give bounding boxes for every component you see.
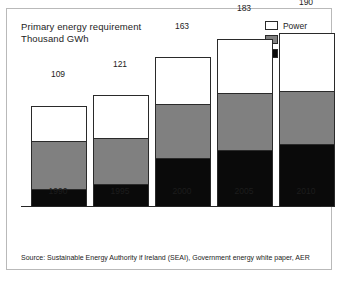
x-axis-label-2005: 2005	[211, 186, 277, 196]
bar-segment-heat	[32, 141, 86, 190]
bar-stack-2010[interactable]	[279, 33, 335, 207]
bar-segment-heat	[156, 104, 210, 160]
bar-total-label: 163	[155, 21, 209, 31]
legend-label-power: Power	[283, 21, 307, 31]
bar-segment-heat	[94, 138, 148, 185]
bar-total-label: 109	[31, 69, 85, 79]
bar-segment-power	[32, 107, 86, 142]
source-note: Source: Sustainable Energy Authority if …	[21, 254, 310, 261]
bar-segment-transport	[218, 151, 272, 206]
bar-segment-transport	[280, 145, 334, 206]
bar-total-label: 190	[279, 0, 333, 7]
bar-stack-2000[interactable]	[155, 57, 211, 207]
bar-segment-power	[218, 40, 272, 93]
x-axis-label-2010: 2010	[273, 186, 339, 196]
x-axis-label-2000: 2000	[149, 186, 215, 196]
bar-segment-transport	[156, 159, 210, 206]
bar-total-label: 121	[93, 59, 147, 69]
x-axis-label-1995: 1995	[87, 186, 153, 196]
x-axis-label-1990: 1990	[25, 186, 91, 196]
bar-total-label: 183	[217, 3, 271, 13]
bar-segment-power	[280, 34, 334, 91]
bar-segment-power	[94, 96, 148, 138]
bar-stack-2005[interactable]	[217, 39, 273, 207]
chart-card: Primary energy requirement Thousand GWh …	[6, 8, 332, 270]
plot-area: 10919901211995163200018320051902010	[21, 39, 321, 235]
legend-item-power: Power	[265, 20, 319, 31]
x-axis-baseline	[21, 206, 321, 208]
bar-segment-heat	[218, 93, 272, 150]
bar-segment-heat	[280, 91, 334, 145]
page-title: Primary energy requirement	[21, 21, 141, 33]
legend-swatch-power	[265, 21, 278, 30]
bar-segment-power	[156, 58, 210, 104]
